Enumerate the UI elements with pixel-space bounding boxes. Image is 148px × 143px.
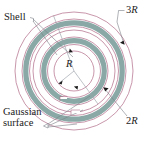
radius-r-label: R [66, 59, 72, 70]
radius-3r-symbol: R [131, 4, 137, 15]
shell-label: Shell [4, 12, 26, 23]
radius-2r-label: 2R [126, 116, 138, 127]
leader-shell-hook [30, 18, 34, 22]
leader-gaussian-hook [44, 124, 49, 129]
gaussian-surface-label: Gaussian surface [3, 107, 42, 128]
arrowhead-3R-leader [120, 41, 125, 45]
arrowhead-3R [69, 49, 73, 53]
gaussian-surface-label-line2: surface [3, 118, 42, 129]
radius-3r-label: 3R [126, 5, 138, 16]
arrowhead-2R-leader [103, 87, 108, 91]
arrowhead-2R [74, 86, 78, 90]
leader-gaussian-line-3 [48, 124, 77, 127]
radius-line-R [59, 71, 75, 84]
radius-2r-symbol: R [131, 115, 137, 126]
